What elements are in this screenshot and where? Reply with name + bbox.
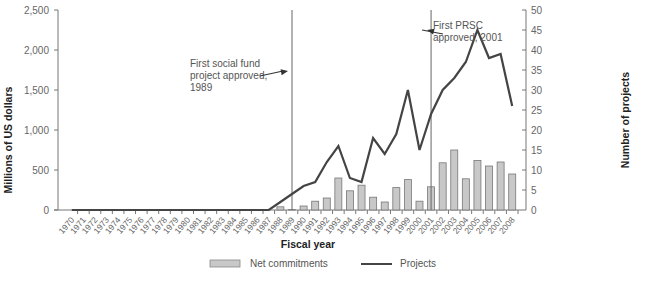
y-tick-label: 1,500 <box>24 85 49 96</box>
x-axis: 1970197119721973197419751976197719781979… <box>54 210 522 236</box>
bar <box>451 150 458 210</box>
y2-tick-label: 35 <box>531 65 543 76</box>
annotation-text: First PRSC <box>433 20 483 31</box>
left-y-axis: 05001,0001,5002,0002,500 <box>24 5 58 216</box>
y2-tick-label: 45 <box>531 25 543 36</box>
y-tick-label: 0 <box>43 205 49 216</box>
annotation-text: 1989 <box>190 82 213 93</box>
y-tick-label: 500 <box>32 165 49 176</box>
legend-bar-swatch <box>210 260 240 267</box>
annotation-text: First social fund <box>190 58 260 69</box>
bar <box>497 162 504 210</box>
bar <box>416 201 423 210</box>
bar <box>312 201 319 210</box>
bar <box>323 198 330 210</box>
legend: Net commitments Projects <box>210 258 436 269</box>
right-y-axis: 05101520253035404550 <box>522 5 543 216</box>
bar <box>277 207 284 210</box>
y2-tick-label: 5 <box>531 185 537 196</box>
bar <box>335 178 342 210</box>
x-axis-title: Fiscal year <box>281 238 335 250</box>
bar <box>404 180 411 210</box>
arrowhead-icon <box>281 69 288 75</box>
y2-tick-label: 50 <box>531 5 543 16</box>
chart: 05001,0001,5002,0002,500 051015202530354… <box>0 0 647 282</box>
y2-tick-label: 0 <box>531 205 537 216</box>
annotations: First social fundproject approved,1989Fi… <box>190 20 503 93</box>
y-tick-label: 2,500 <box>24 5 49 16</box>
bar <box>509 174 516 210</box>
y2-tick-label: 30 <box>531 85 543 96</box>
bar <box>381 202 388 210</box>
bar <box>439 163 446 210</box>
net-commitments-bars <box>277 150 516 210</box>
y2-axis-title: Number of projects <box>619 72 631 168</box>
bar <box>474 160 481 210</box>
y-axis-title: Millions of US dollars <box>2 86 14 193</box>
bar <box>370 197 377 210</box>
bar <box>358 185 365 210</box>
legend-line-label: Projects <box>400 258 436 269</box>
y2-tick-label: 20 <box>531 125 543 136</box>
bar <box>486 166 493 210</box>
bar <box>393 188 400 210</box>
bar <box>462 179 469 210</box>
bar <box>346 191 353 210</box>
y-tick-label: 1,000 <box>24 125 49 136</box>
y-tick-label: 2,000 <box>24 45 49 56</box>
bar <box>300 206 307 210</box>
y2-tick-label: 15 <box>531 145 543 156</box>
annotation-text: project approved, <box>190 70 267 81</box>
legend-bar-label: Net commitments <box>250 258 328 269</box>
y2-tick-label: 40 <box>531 45 543 56</box>
y2-tick-label: 25 <box>531 105 543 116</box>
y2-tick-label: 10 <box>531 165 543 176</box>
annotation-text: approved, 2001 <box>433 32 503 43</box>
